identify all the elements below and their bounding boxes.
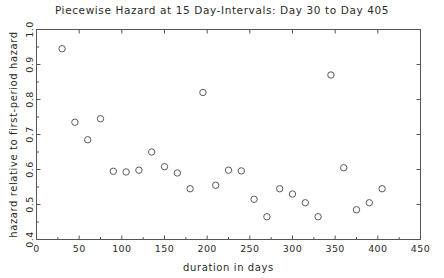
x-tick-label: 200: [197, 243, 216, 254]
data-point[interactable]: [97, 116, 103, 122]
y-tick-label: 0.5: [24, 196, 35, 212]
data-point[interactable]: [225, 167, 231, 173]
data-point[interactable]: [315, 214, 321, 220]
x-tick-label: 400: [368, 243, 387, 254]
data-point[interactable]: [161, 164, 167, 170]
data-point[interactable]: [264, 214, 270, 220]
x-tick-label: 300: [283, 243, 302, 254]
plot-frame: [37, 30, 421, 240]
data-point[interactable]: [200, 89, 206, 95]
data-point[interactable]: [85, 137, 91, 143]
y-tick-label: 1.0: [24, 21, 35, 37]
y-tick-label: 0.8: [24, 91, 35, 107]
y-tick-label: 0.4: [24, 231, 35, 247]
data-point[interactable]: [379, 186, 385, 192]
x-tick-label: 250: [240, 243, 259, 254]
data-point[interactable]: [366, 200, 372, 206]
data-point[interactable]: [213, 182, 219, 188]
data-point[interactable]: [123, 169, 129, 175]
data-point[interactable]: [289, 191, 295, 197]
x-tick-label: 350: [325, 243, 344, 254]
data-point[interactable]: [59, 46, 65, 52]
data-point[interactable]: [110, 168, 116, 174]
data-point[interactable]: [251, 196, 257, 202]
y-axis-title: hazard relative to first-period hazard: [8, 31, 19, 238]
chart-figure: Piecewise Hazard at 15 Day-Intervals: Da…: [0, 0, 444, 278]
data-point[interactable]: [353, 207, 359, 213]
x-tick-label: 450: [411, 243, 430, 254]
scatter-plot: 0501001502002503003504004500.40.50.60.70…: [0, 0, 444, 278]
x-tick-label: 50: [73, 243, 86, 254]
data-point[interactable]: [174, 170, 180, 176]
data-point[interactable]: [136, 167, 142, 173]
data-point[interactable]: [149, 149, 155, 155]
x-tick-label: 150: [155, 243, 174, 254]
data-point[interactable]: [341, 165, 347, 171]
data-point[interactable]: [328, 72, 334, 78]
data-series: [59, 46, 385, 220]
data-point[interactable]: [187, 186, 193, 192]
y-tick-label: 0.7: [24, 126, 35, 142]
data-point[interactable]: [72, 119, 78, 125]
y-tick-label: 0.9: [24, 56, 35, 72]
data-point[interactable]: [277, 186, 283, 192]
y-tick-label: 0.6: [24, 161, 35, 177]
data-point[interactable]: [302, 200, 308, 206]
data-point[interactable]: [238, 168, 244, 174]
x-tick-label: 100: [112, 243, 131, 254]
x-axis-title: duration in days: [183, 262, 274, 273]
